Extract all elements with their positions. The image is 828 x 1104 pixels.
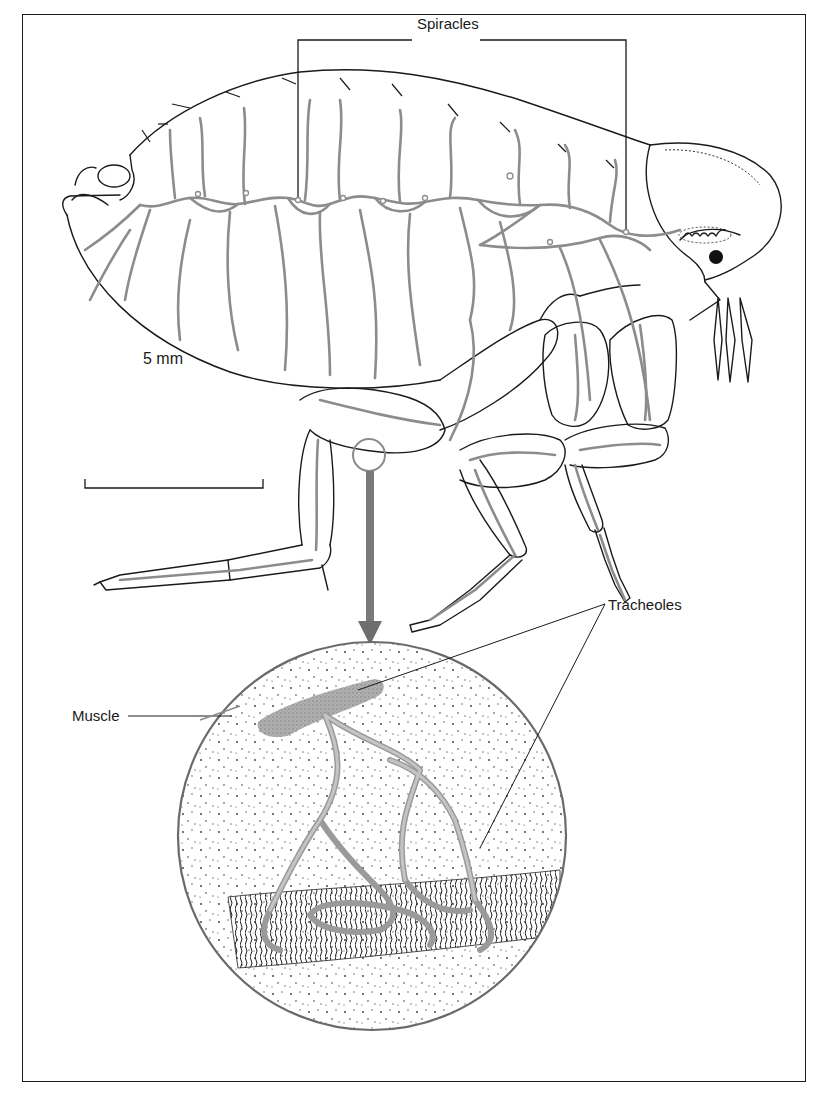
muscle-label: Muscle xyxy=(72,707,120,725)
spiracles-leader xyxy=(298,40,626,230)
dorsal-bristles xyxy=(142,78,614,168)
scale-bar-label: 5 mm xyxy=(143,350,183,368)
tracheoles-label: Tracheoles xyxy=(608,596,682,614)
flea-illustration xyxy=(0,0,828,1104)
scale-bar xyxy=(85,479,263,488)
magnified-inset xyxy=(170,640,580,1040)
spiracles-label: Spiracles xyxy=(414,15,482,33)
down-arrow-icon xyxy=(358,471,382,645)
magnification-source-circle xyxy=(353,439,385,471)
eye xyxy=(709,250,723,264)
